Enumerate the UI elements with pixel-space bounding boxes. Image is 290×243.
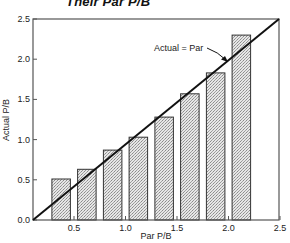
y-tick-label: 1.0: [17, 135, 30, 145]
bar: [129, 137, 148, 220]
chart: Their Par P/B 0.00.51.01.52.02.5 0.51.01…: [0, 0, 290, 243]
bar-series: [52, 35, 251, 220]
y-axis-label: Actual P/B: [1, 99, 11, 141]
y-tick-label: 0.0: [17, 215, 30, 225]
y-tick-label: 0.5: [17, 175, 30, 185]
bar: [232, 35, 251, 220]
bar: [52, 179, 71, 220]
y-axis-ticks: 0.00.51.01.52.02.5: [17, 14, 37, 225]
x-tick-label: 1.5: [171, 223, 184, 233]
x-axis-ticks: 0.51.01.52.02.5: [68, 216, 287, 233]
x-tick-label: 0.5: [68, 223, 81, 233]
x-tick-label: 1.0: [119, 223, 132, 233]
chart-title: Their Par P/B: [66, 0, 150, 9]
x-axis-label: Par P/B: [140, 231, 171, 241]
plot-area: 0.00.51.01.52.02.5 0.51.01.52.02.5 Actua…: [0, 0, 290, 243]
bar: [155, 117, 174, 220]
bar: [206, 73, 225, 220]
y-tick-label: 1.5: [17, 94, 30, 104]
y-tick-label: 2.0: [17, 54, 30, 64]
x-tick-label: 2.5: [274, 223, 287, 233]
bar: [181, 94, 200, 220]
annotation-label: Actual = Par: [154, 43, 203, 53]
y-tick-label: 2.5: [17, 14, 30, 24]
x-tick-label: 2.0: [222, 223, 235, 233]
